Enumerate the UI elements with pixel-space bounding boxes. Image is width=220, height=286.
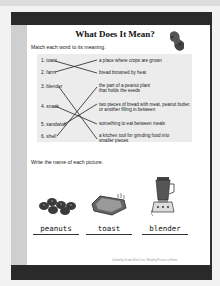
- footer-bar: [11, 265, 212, 280]
- answer-toast: toast: [86, 224, 132, 235]
- footer-credit: Guided by Grade-Word Lists / Reading Pra…: [112, 259, 177, 262]
- blender-icon: [150, 176, 176, 218]
- top-strip: [0, 0, 220, 6]
- match-lines: [37, 54, 192, 142]
- picture-instruction: Write the name of each picture.: [31, 159, 103, 165]
- left-margin-bar: [11, 25, 27, 265]
- worksheet-title: What Does It Mean?: [60, 29, 170, 39]
- answer-peanuts: peanuts: [33, 224, 79, 235]
- answer-blender: blender: [142, 224, 188, 235]
- peanut-icon: [170, 30, 184, 52]
- peanuts-icon: [38, 196, 78, 216]
- match-instruction: Match each word to its meaning.: [31, 44, 106, 50]
- header-bar: [11, 12, 212, 25]
- toast-icon: [90, 192, 128, 216]
- worksheet-page: [11, 12, 212, 280]
